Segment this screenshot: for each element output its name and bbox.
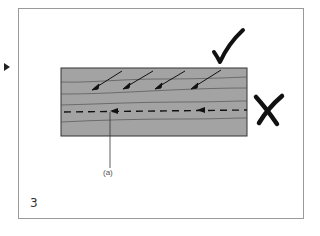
check-mark-icon — [214, 30, 243, 62]
cross-mark-icon — [256, 96, 282, 124]
wood-grain-diagram — [0, 0, 320, 236]
label-a: (a) — [103, 168, 113, 177]
slide-number: 3 — [30, 196, 38, 210]
